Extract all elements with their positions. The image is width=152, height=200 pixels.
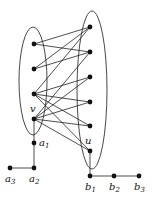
node-R5	[88, 124, 93, 129]
node-L3	[32, 92, 37, 97]
edge-v-R4	[34, 102, 90, 119]
graph-nodes	[8, 25, 142, 179]
label-a1: a1	[39, 137, 49, 150]
node-u	[88, 149, 93, 154]
node-R4	[88, 100, 93, 105]
node-v	[32, 117, 37, 122]
node-R3	[88, 75, 93, 80]
label-u: u	[85, 135, 91, 146]
node-R2	[88, 50, 93, 55]
graph-edges	[10, 27, 139, 176]
edge-L1-R1	[34, 27, 90, 44]
edge-L3-R1	[34, 27, 90, 94]
node-a2	[32, 166, 37, 171]
label-b2: b2	[109, 181, 120, 194]
edge-v-R2	[34, 52, 90, 119]
node-a3	[8, 166, 13, 171]
node-R1	[88, 25, 93, 30]
label-v: v	[30, 103, 36, 114]
label-a3: a3	[5, 173, 16, 186]
right-set-ellipse	[77, 11, 107, 169]
node-b2	[112, 174, 117, 179]
vertex-set-ellipses	[19, 11, 107, 169]
node-b3	[137, 174, 142, 179]
edge-v-R3	[34, 77, 90, 119]
node-L1	[32, 42, 37, 47]
label-b3: b3	[134, 181, 145, 194]
label-a2: a2	[29, 173, 40, 186]
node-b1	[88, 174, 93, 179]
node-L2	[32, 67, 37, 72]
edge-L2-R1	[34, 27, 90, 69]
graph-diagram: v u a1 a2 a3 b1 b2 b3	[0, 0, 152, 200]
label-b1: b1	[85, 181, 96, 194]
node-a1	[32, 141, 37, 146]
